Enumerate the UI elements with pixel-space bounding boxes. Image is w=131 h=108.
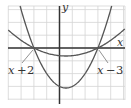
parabola-graph: x y x + 2 x − 3 (0, 0, 131, 108)
left-factor-var: x (8, 63, 15, 77)
left-factor-op: + (17, 63, 27, 77)
y-axis-label: y (61, 1, 69, 14)
annotation-x-minus-3: x − 3 (97, 63, 123, 77)
right-factor-num: 3 (116, 63, 123, 77)
left-factor-num: 2 (27, 63, 34, 77)
right-factor-var: x (97, 63, 104, 77)
wide-parabola-curve (8, 29, 124, 56)
annotation-x-plus-2: x + 2 (8, 63, 34, 77)
right-factor-op: − (106, 63, 116, 77)
x-axis-label: x (117, 36, 124, 49)
